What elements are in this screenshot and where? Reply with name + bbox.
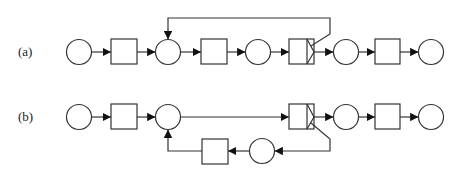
place-b1 <box>67 105 92 130</box>
row-a-label: (a) <box>18 44 32 59</box>
place-b2 <box>156 105 181 130</box>
petri-net-diagram: (a) (b) <box>0 0 460 174</box>
place-a1 <box>67 40 92 65</box>
transition-a1 <box>111 39 137 64</box>
transition-b1 <box>111 104 137 129</box>
place-a3 <box>246 40 271 65</box>
feedback-arc-b3 <box>168 130 202 152</box>
place-a5 <box>419 40 444 65</box>
place-b3 <box>334 105 359 130</box>
row-b-label: (b) <box>18 109 33 124</box>
place-a2 <box>156 40 181 65</box>
place-a4 <box>334 40 359 65</box>
place-b-loop <box>250 139 275 164</box>
transition-b2 <box>375 104 400 129</box>
transition-a3 <box>375 39 400 64</box>
split-transition-a <box>289 39 314 64</box>
transition-b-loop <box>202 139 228 164</box>
row-a: (a) <box>18 18 444 65</box>
transition-a2 <box>201 39 227 64</box>
place-b4 <box>419 105 444 130</box>
split-transition-b <box>289 104 314 129</box>
row-b: (b) <box>18 104 444 164</box>
